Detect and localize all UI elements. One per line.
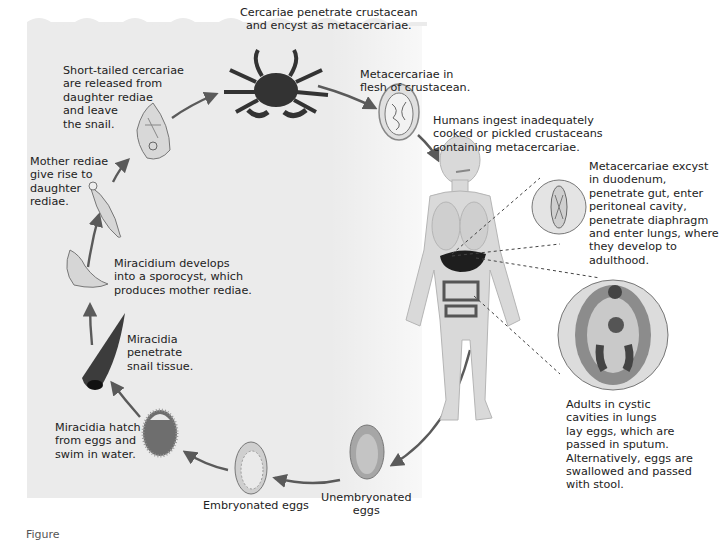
label-unembryonated-eggs: Unembryonated eggs (321, 491, 412, 518)
label-miracidia-hatch: Miracidia hatch from eggs and swim in wa… (55, 421, 141, 461)
label-sporocyst: Miracidium develops into a sporocyst, wh… (114, 257, 252, 297)
embryonated-egg-illustration (235, 442, 267, 494)
snail-illustration (82, 313, 125, 390)
label-cercariae-crustacean: Cercariae penetrate crustacean and encys… (240, 6, 418, 33)
label-mother-rediae: Mother rediae give rise to daughter redi… (30, 155, 108, 209)
adult-fluke-illustration (558, 280, 668, 390)
excysted-fluke-illustration (532, 180, 586, 234)
sporocyst-illustration (67, 250, 108, 287)
label-human-ingest: Humans ingest inadequately cooked or pic… (433, 114, 603, 154)
human-body-illustration (406, 136, 520, 420)
miracidium-illustration (143, 410, 177, 456)
unembryonated-egg-illustration (350, 425, 384, 479)
crab-illustration (224, 50, 328, 116)
figure-caption: Figure (26, 528, 60, 541)
label-embryonated-eggs: Embryonated eggs (203, 499, 309, 512)
label-cercariae-released: Short-tailed cercariae are released from… (63, 64, 184, 131)
label-miracidia-penetrate: Miracidia penetrate snail tissue. (127, 333, 193, 373)
label-excyst: Metacercariae excyst in duodenum, penetr… (589, 160, 719, 267)
label-adults-lungs: Adults in cystic cavities in lungs lay e… (566, 398, 693, 492)
label-metacercariae-flesh: Metacercariae in flesh of crustacean. (360, 68, 470, 95)
